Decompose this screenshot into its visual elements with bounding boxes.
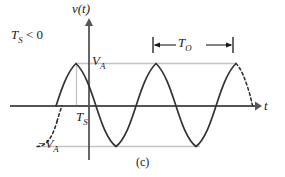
dimension-arrowhead-left	[154, 42, 161, 47]
amplitude-negative-sub: A	[53, 144, 58, 154]
waveform-dashed-right	[236, 64, 253, 107]
t-axis-arrowhead	[255, 102, 262, 111]
period-label: TO	[178, 36, 192, 52]
amplitude-positive-var: V	[92, 53, 100, 68]
shift-sub: S	[83, 117, 87, 127]
condition-label: TS < 0	[11, 28, 43, 44]
v-axis-arrowhead	[85, 18, 93, 26]
x-axis-label: t	[264, 99, 268, 112]
period-sub: O	[185, 43, 191, 53]
figure-panel-c: v(t) t TS < 0 VA −VA TS TO (c)	[0, 0, 285, 177]
dimension-arrowhead-right	[226, 42, 233, 47]
amplitude-negative-label: −VA	[38, 137, 59, 153]
waveform-dashed-left-tail	[57, 106, 62, 122]
shift-label: TS	[76, 110, 88, 126]
amplitude-positive-sub: A	[100, 61, 105, 71]
panel-caption: (c)	[136, 156, 149, 168]
amplitude-positive-label: VA	[92, 54, 105, 70]
y-axis-label: v(t)	[72, 2, 90, 15]
condition-relation-text: < 0	[26, 27, 43, 42]
